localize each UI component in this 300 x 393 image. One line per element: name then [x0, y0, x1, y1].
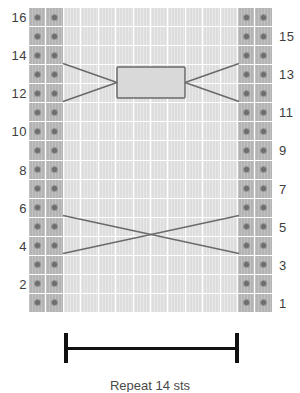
row-number-6: 6 [19, 202, 27, 215]
knit-stitch-cell [186, 27, 203, 46]
purl-stitch-cell [255, 180, 272, 199]
knit-stitch-cell [99, 256, 116, 275]
knit-stitch-cell [168, 84, 185, 103]
purl-dot-icon [261, 262, 266, 267]
purl-dot-icon [35, 34, 40, 39]
knit-stitch-cell [116, 199, 133, 218]
knit-stitch-cell [99, 218, 116, 237]
knit-stitch-cell [81, 180, 98, 199]
row-number-7: 7 [279, 183, 287, 196]
knit-stitch-cell [221, 180, 238, 199]
purl-stitch-cell [255, 256, 272, 275]
purl-dot-icon [244, 205, 249, 210]
purl-dot-icon [52, 281, 57, 286]
purl-dot-icon [244, 186, 249, 191]
purl-dot-icon [244, 262, 249, 267]
purl-stitch-cell [238, 275, 255, 294]
knit-stitch-cell [64, 65, 81, 84]
knit-stitch-cell [99, 294, 116, 313]
purl-stitch-cell [238, 237, 255, 256]
purl-dot-icon [52, 205, 57, 210]
row-number-1: 1 [279, 297, 287, 310]
chart-row [29, 161, 273, 180]
knit-stitch-cell [151, 218, 168, 237]
purl-dot-icon [261, 72, 266, 77]
purl-dot-icon [244, 110, 249, 115]
knit-stitch-cell [186, 218, 203, 237]
knit-stitch-cell [186, 180, 203, 199]
knit-stitch-cell [99, 275, 116, 294]
row-number-12: 12 [12, 87, 27, 100]
purl-stitch-cell [46, 161, 63, 180]
knit-stitch-cell [64, 180, 81, 199]
chart-row [29, 141, 273, 160]
purl-dot-icon [261, 91, 266, 96]
chart-row [29, 27, 273, 46]
knit-stitch-cell [221, 65, 238, 84]
row-number-9: 9 [279, 144, 287, 157]
purl-dot-icon [35, 205, 40, 210]
chart-row [29, 65, 273, 84]
knitting-chart: 161412108642 15131197531 Repeat 14 sts [0, 0, 300, 393]
row-number-11: 11 [279, 106, 294, 119]
purl-stitch-cell [238, 122, 255, 141]
purl-stitch-cell [29, 8, 46, 27]
knit-stitch-cell [81, 103, 98, 122]
purl-dot-icon [261, 34, 266, 39]
purl-dot-icon [244, 129, 249, 134]
knit-stitch-cell [168, 103, 185, 122]
purl-stitch-cell [255, 27, 272, 46]
knit-stitch-cell [81, 256, 98, 275]
purl-stitch-cell [29, 218, 46, 237]
knit-stitch-cell [151, 199, 168, 218]
repeat-bracket [64, 333, 239, 363]
knit-stitch-cell [116, 103, 133, 122]
knit-stitch-cell [116, 65, 133, 84]
knit-stitch-cell [64, 84, 81, 103]
knit-stitch-cell [221, 27, 238, 46]
knit-stitch-cell [168, 46, 185, 65]
purl-stitch-cell [46, 180, 63, 199]
knit-stitch-cell [168, 199, 185, 218]
purl-dot-icon [35, 281, 40, 286]
purl-dot-icon [261, 300, 266, 305]
purl-dot-icon [244, 148, 249, 153]
row-number-4: 4 [19, 240, 27, 253]
knit-stitch-cell [134, 218, 151, 237]
purl-stitch-cell [46, 122, 63, 141]
knit-stitch-cell [81, 141, 98, 160]
knit-stitch-cell [186, 256, 203, 275]
knit-stitch-cell [203, 237, 220, 256]
knit-stitch-cell [221, 103, 238, 122]
purl-stitch-cell [238, 294, 255, 313]
purl-stitch-cell [46, 256, 63, 275]
knit-stitch-cell [168, 141, 185, 160]
purl-stitch-cell [46, 275, 63, 294]
purl-dot-icon [244, 15, 249, 20]
knit-stitch-cell [203, 27, 220, 46]
knit-stitch-cell [203, 8, 220, 27]
knit-stitch-cell [168, 180, 185, 199]
chart-row [29, 199, 273, 218]
purl-stitch-cell [255, 218, 272, 237]
purl-stitch-cell [255, 141, 272, 160]
knit-stitch-cell [116, 256, 133, 275]
knit-stitch-cell [134, 27, 151, 46]
knit-stitch-cell [81, 218, 98, 237]
knit-stitch-cell [116, 84, 133, 103]
knit-stitch-cell [134, 161, 151, 180]
purl-stitch-cell [238, 218, 255, 237]
knit-stitch-cell [186, 46, 203, 65]
knit-stitch-cell [186, 122, 203, 141]
knit-stitch-cell [99, 65, 116, 84]
purl-dot-icon [244, 281, 249, 286]
purl-dot-icon [52, 243, 57, 248]
knit-stitch-cell [116, 122, 133, 141]
purl-dot-icon [52, 186, 57, 191]
knit-stitch-cell [203, 161, 220, 180]
purl-stitch-cell [46, 294, 63, 313]
row-number-5: 5 [279, 221, 287, 234]
knit-stitch-cell [116, 161, 133, 180]
purl-stitch-cell [255, 237, 272, 256]
purl-dot-icon [261, 205, 266, 210]
